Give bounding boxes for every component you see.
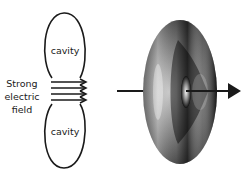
cavity-bottom-label: cavity — [45, 125, 85, 138]
electric-field-label: Strong electric field — [0, 77, 44, 116]
electric-field-arrows — [51, 79, 86, 103]
cavity-top-label: cavity — [45, 44, 85, 57]
field-label-line-3: field — [0, 103, 44, 116]
cavity-field-diagram: cavity cavity Strong electric field — [0, 0, 248, 178]
field-label-line-1: Strong — [0, 77, 44, 90]
axis-arrow-head — [228, 83, 241, 99]
torus-shape — [143, 20, 217, 164]
field-label-line-2: electric — [0, 90, 44, 103]
